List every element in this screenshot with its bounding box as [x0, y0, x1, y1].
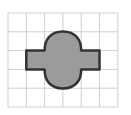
composite-shape: [26, 32, 99, 89]
grid-diagram: [0, 0, 131, 115]
grid-shape-figure: [0, 0, 131, 115]
